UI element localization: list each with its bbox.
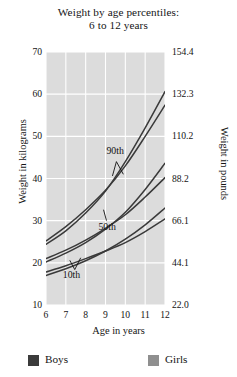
chart-title-line-2: 6 to 12 years: [0, 19, 237, 32]
annotation-leader-lines: [46, 52, 165, 305]
x-tick-year: 7: [56, 310, 76, 320]
chart-title-line-1: Weight by age percentiles:: [58, 6, 179, 18]
x-tick-year: 12: [155, 310, 175, 320]
percentile-annotation-90th: 90th: [106, 146, 123, 156]
y-tick-lb: 154.4: [172, 47, 194, 57]
x-tick-year: 8: [76, 310, 96, 320]
percentile-annotation-10th: 10th: [63, 270, 80, 280]
y-tick-lb: 88.2: [172, 174, 189, 184]
y-tick-kg: 50: [32, 131, 42, 141]
y-tick-kg: 20: [32, 258, 42, 268]
y-axis-label-kilograms: Weight in kilograms: [17, 77, 28, 247]
y-tick-lb: 44.1: [172, 258, 189, 268]
chart-title: Weight by age percentiles: 6 to 12 years: [0, 6, 237, 32]
legend-label-girls: Girls: [165, 354, 187, 365]
legend-item-boys: Boys: [28, 352, 68, 368]
y-axis-label-pounds: Weight in pounds: [219, 79, 230, 249]
y-tick-kg: 60: [32, 89, 42, 99]
legend-swatch-girls: [148, 355, 159, 366]
x-tick-year: 9: [96, 310, 116, 320]
y-tick-lb: 110.2: [172, 131, 193, 141]
legend-swatch-boys: [28, 355, 39, 366]
legend-item-girls: Girls: [148, 352, 187, 368]
x-tick-year: 6: [36, 310, 56, 320]
x-tick-year: 11: [135, 310, 155, 320]
legend-label-boys: Boys: [45, 354, 68, 365]
y-tick-kg: 70: [32, 47, 42, 57]
y-tick-lb: 66.1: [172, 216, 189, 226]
percentile-annotation-50th: 50th: [98, 222, 115, 232]
y-tick-kg: 40: [32, 174, 42, 184]
plot-area: [46, 52, 165, 305]
x-axis-label: Age in years: [0, 325, 237, 336]
y-tick-kg: 10: [32, 300, 42, 310]
y-tick-kg: 30: [32, 216, 42, 226]
x-tick-year: 10: [115, 310, 135, 320]
y-tick-lb: 22.0: [172, 300, 189, 310]
weight-percentile-chart: Weight by age percentiles: 6 to 12 years…: [0, 0, 237, 377]
chart-legend: Boys Girls: [0, 352, 237, 372]
y-tick-lb: 132.3: [172, 89, 194, 99]
